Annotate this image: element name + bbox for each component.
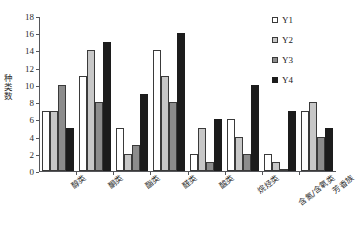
bar-y2 <box>87 50 95 171</box>
bar-y1 <box>116 128 124 171</box>
legend: Y1Y2Y3Y4 <box>272 10 342 90</box>
bar-y3 <box>169 102 177 171</box>
y-axis-tick-label: 18 <box>8 13 34 22</box>
bar-y4 <box>288 111 296 171</box>
y-axis-tick-label: 0 <box>8 168 34 177</box>
bar-y1 <box>190 154 198 171</box>
legend-swatch-y2 <box>272 37 278 43</box>
x-axis-label: 烷烃类 <box>256 174 280 196</box>
legend-label: Y3 <box>282 56 293 65</box>
y-axis-tick-label: 6 <box>8 116 34 125</box>
legend-item-y2[interactable]: Y2 <box>272 30 342 50</box>
bar-y2 <box>272 162 280 171</box>
legend-item-y4[interactable]: Y4 <box>272 70 342 90</box>
bar-y3 <box>58 85 66 171</box>
y-axis-tick-label: 12 <box>8 64 34 73</box>
bar-y4 <box>214 119 222 171</box>
x-axis-label: 酸类 <box>218 174 236 191</box>
legend-item-y3[interactable]: Y3 <box>272 50 342 70</box>
y-axis-tick-label: 14 <box>8 47 34 56</box>
bar-group <box>225 17 262 171</box>
bar-y2 <box>198 128 206 171</box>
bar-group <box>76 17 113 171</box>
y-axis-tick-label: 8 <box>8 99 34 108</box>
legend-label: Y2 <box>282 36 293 45</box>
bar-y2 <box>50 111 58 171</box>
y-axis-tick-label: 4 <box>8 133 34 142</box>
legend-label: Y4 <box>282 76 293 85</box>
bar-group <box>39 17 76 171</box>
x-axis-label-container: 醇类酮类酯类醛类酸类烷烃类含氮/含氧类芳香族 <box>39 174 336 226</box>
x-axis-label: 醛类 <box>180 174 198 191</box>
legend-label: Y1 <box>282 16 293 25</box>
bar-y3 <box>132 145 140 171</box>
bar-y1 <box>227 119 235 171</box>
legend-swatch-y3 <box>272 57 278 63</box>
bar-y4 <box>325 128 333 171</box>
bar-y4 <box>103 42 111 171</box>
bar-group <box>113 17 150 171</box>
x-axis-label: 醇类 <box>69 174 87 191</box>
bar-group <box>188 17 225 171</box>
bar-y3 <box>280 169 288 171</box>
y-axis-tick-label: 10 <box>8 81 34 90</box>
bar-y1 <box>264 154 272 171</box>
bar-y3 <box>95 102 103 171</box>
bar-y3 <box>243 154 251 171</box>
bar-y4 <box>177 33 185 171</box>
bar-y2 <box>161 76 169 171</box>
bar-group <box>150 17 187 171</box>
y-axis-tick-label: 16 <box>8 30 34 39</box>
legend-item-y1[interactable]: Y1 <box>272 10 342 30</box>
bar-y1 <box>153 50 161 171</box>
y-axis-tick-mark <box>36 172 39 173</box>
bar-y1 <box>42 111 50 171</box>
bar-y1 <box>301 111 309 171</box>
bar-y3 <box>317 137 325 171</box>
x-axis-label: 含氮/含氧类 <box>298 174 337 207</box>
y-axis-tick-label: 2 <box>8 150 34 159</box>
bar-y2 <box>235 137 243 171</box>
bar-y1 <box>79 76 87 171</box>
bar-y4 <box>66 128 74 171</box>
legend-swatch-y4 <box>272 77 278 83</box>
bar-y4 <box>251 85 259 171</box>
x-axis-label: 酮类 <box>106 174 124 191</box>
bar-y3 <box>206 162 214 171</box>
bar-y2 <box>309 102 317 171</box>
bar-y4 <box>140 94 148 172</box>
bar-y2 <box>124 154 132 171</box>
x-axis-label: 酯类 <box>143 174 161 191</box>
legend-swatch-y1 <box>272 17 278 23</box>
